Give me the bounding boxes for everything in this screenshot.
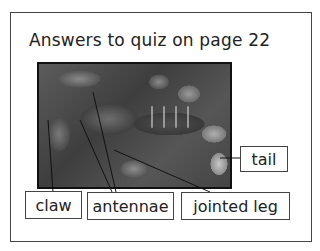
tail-segment (175, 106, 177, 128)
tail-segment (151, 106, 153, 128)
page-title: Answers to quiz on page 22 (29, 30, 270, 50)
label-jointed-leg: jointed leg (181, 192, 290, 220)
label-jointed-leg-text: jointed leg (193, 197, 278, 216)
tail-segment (187, 106, 189, 128)
tail-segment (163, 106, 165, 128)
label-claw-text: claw (35, 196, 71, 215)
label-claw: claw (25, 191, 82, 219)
label-tail: tail (240, 146, 288, 172)
label-tail-text: tail (252, 150, 277, 169)
label-antennae: antennae (87, 192, 174, 220)
label-antennae-text: antennae (93, 197, 169, 216)
lobster-photo (37, 62, 232, 189)
